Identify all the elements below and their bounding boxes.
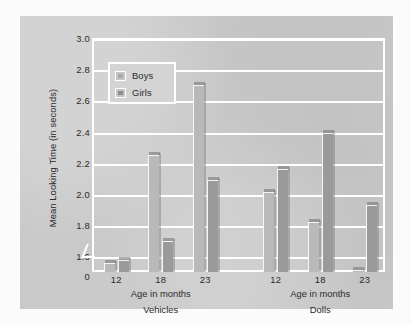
group-title-dolls: Dolls bbox=[250, 304, 390, 315]
bar-side-shadow bbox=[159, 153, 161, 272]
bar-side-shadow bbox=[363, 268, 365, 272]
gridline-2-0 bbox=[92, 195, 383, 197]
y-axis-tick-1-8: 1.8 bbox=[64, 220, 90, 231]
bar-side-shadow bbox=[115, 261, 117, 272]
legend-swatch-boys-icon bbox=[115, 71, 126, 81]
bar-side-shadow bbox=[319, 220, 321, 272]
bar-side-shadow bbox=[333, 131, 335, 272]
y-axis-tick-labels: 01.61.82.02.22.42.62.83.0 bbox=[62, 16, 90, 309]
bar-side-shadow bbox=[129, 258, 131, 272]
legend-label-girls: Girls bbox=[132, 87, 152, 98]
chart-figure-panel: Mean Looking Time (in seconds) 01.61.82.… bbox=[20, 16, 393, 309]
bar-side-shadow bbox=[218, 178, 220, 272]
y-axis-tick-2-6: 2.6 bbox=[64, 95, 90, 106]
group-title-vehicles: Vehicles bbox=[91, 304, 231, 315]
bar-face bbox=[162, 241, 173, 272]
bar-face bbox=[352, 270, 363, 272]
bar-vehicles-12mo-boys bbox=[104, 263, 115, 272]
gridline-2-4 bbox=[92, 133, 383, 135]
gridline-2-2 bbox=[92, 164, 383, 166]
y-axis-tick-2-2: 2.2 bbox=[64, 157, 90, 168]
bar-dolls-23mo-boys bbox=[352, 270, 363, 272]
bar-face bbox=[263, 192, 274, 272]
y-axis-tick-2-0: 2.0 bbox=[64, 189, 90, 200]
gridline-1-8 bbox=[92, 226, 383, 228]
legend-item-boys: Boys bbox=[115, 67, 170, 84]
bar-dolls-18mo-boys bbox=[308, 222, 319, 272]
x-axis-tick-dolls-12: 12 bbox=[256, 274, 296, 285]
legend-swatch-girls-icon bbox=[115, 88, 126, 98]
x-axis-tick-vehicles-18: 18 bbox=[141, 274, 181, 285]
bar-dolls-12mo-girls bbox=[277, 169, 288, 272]
bar-vehicles-18mo-boys bbox=[148, 155, 159, 272]
bar-face bbox=[308, 222, 319, 272]
y-axis-tick-2-4: 2.4 bbox=[64, 126, 90, 137]
bar-side-shadow bbox=[204, 83, 206, 272]
bar-face bbox=[207, 180, 218, 272]
chart-legend: Boys Girls bbox=[108, 62, 176, 104]
y-axis-line bbox=[92, 38, 94, 272]
bar-vehicles-12mo-girls bbox=[118, 260, 129, 272]
bar-face bbox=[366, 205, 377, 272]
x-axis-title-dolls: Age in months bbox=[250, 288, 390, 299]
x-axis-tick-vehicles-12: 12 bbox=[96, 274, 136, 285]
x-axis-tick-dolls-18: 18 bbox=[300, 274, 340, 285]
bar-dolls-18mo-girls bbox=[322, 133, 333, 272]
x-axis-title-vehicles: Age in months bbox=[91, 288, 231, 299]
y-axis-tick-3-0: 3.0 bbox=[64, 33, 90, 44]
bar-vehicles-18mo-girls bbox=[162, 241, 173, 272]
x-axis-line bbox=[92, 270, 385, 272]
x-axis-tick-dolls-23: 23 bbox=[345, 274, 385, 285]
bar-face bbox=[118, 260, 129, 272]
bar-face bbox=[193, 85, 204, 272]
bar-side-shadow bbox=[173, 239, 175, 272]
bar-vehicles-23mo-boys bbox=[193, 85, 204, 272]
legend-item-girls: Girls bbox=[115, 84, 170, 101]
y-axis-tick-0: 0 bbox=[64, 271, 90, 282]
bar-dolls-23mo-girls bbox=[366, 205, 377, 272]
bar-dolls-12mo-boys bbox=[263, 192, 274, 272]
gridline-3-0 bbox=[92, 39, 383, 41]
scanned-page: Mean Looking Time (in seconds) 01.61.82.… bbox=[0, 0, 411, 325]
bar-face bbox=[322, 133, 333, 272]
y-axis-title: Mean Looking Time (in seconds) bbox=[47, 58, 61, 258]
y-axis-tick-2-8: 2.8 bbox=[64, 64, 90, 75]
bar-vehicles-23mo-girls bbox=[207, 180, 218, 272]
bar-side-shadow bbox=[288, 167, 290, 272]
bar-side-shadow bbox=[377, 203, 379, 272]
bar-face bbox=[148, 155, 159, 272]
x-axis-tick-vehicles-23: 23 bbox=[185, 274, 225, 285]
gridline-1-6 bbox=[92, 257, 383, 259]
bar-face bbox=[104, 263, 115, 272]
bar-face bbox=[277, 169, 288, 272]
bar-side-shadow bbox=[274, 190, 276, 272]
legend-label-boys: Boys bbox=[132, 70, 153, 81]
